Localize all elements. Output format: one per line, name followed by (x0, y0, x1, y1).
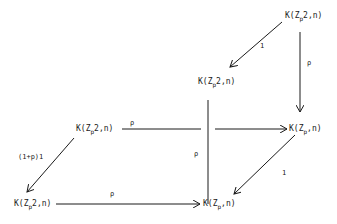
diagram-arrows (0, 0, 337, 224)
label-edge-mid-left-mid-right: ρ (130, 120, 134, 127)
arrow-mid-right-to-bottom-mid (234, 135, 295, 194)
label-edge-mid-top-bottom-mid: ρ (194, 151, 198, 158)
label-edge-mid-right-bottom-mid: 1 (282, 170, 286, 177)
arrow-mid-left-to-bottom-left (27, 138, 74, 192)
node-top-right: K(Zp2,n) (285, 12, 322, 22)
label-edge-top-right-mid-top: 1 (260, 43, 264, 50)
label-edge-mid-left-bottom-left: (1+p)1 (18, 154, 43, 161)
node-bottom-mid: K(Zp,n) (203, 200, 236, 210)
node-mid-top: K(Zp2,n) (198, 78, 235, 88)
arrow-top-right-to-mid-top (230, 22, 282, 67)
node-bottom-left: K(Zp2,n) (14, 200, 51, 210)
node-mid-left: K(Zp2,n) (76, 125, 113, 135)
label-edge-top-right-mid-right: ρ (307, 60, 311, 67)
node-mid-right: K(Zp,n) (289, 125, 322, 135)
label-edge-bottom-left-bottom-mid: ρ (110, 191, 114, 198)
